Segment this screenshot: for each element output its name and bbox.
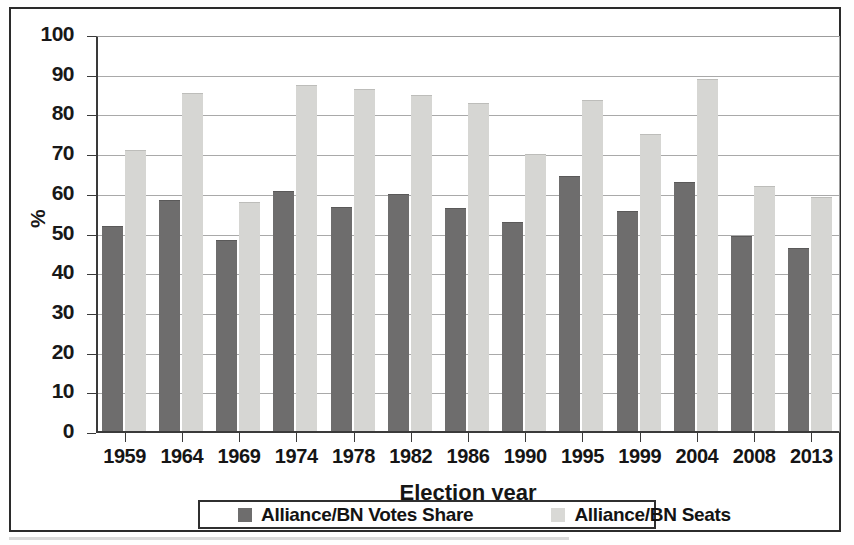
y-tick-label: 0 <box>63 419 74 443</box>
x-tick-label: 1969 <box>210 445 267 468</box>
x-tick-mark <box>525 433 526 442</box>
legend-swatch-votes <box>238 508 252 522</box>
x-tick-label: 1959 <box>96 445 153 468</box>
chart-legend: Alliance/BN Votes ShareAlliance/BN Seats <box>198 500 656 529</box>
x-tick-mark <box>125 433 126 442</box>
y-tick-mark <box>87 433 96 434</box>
y-tick-mark <box>87 274 96 275</box>
x-tick-mark <box>811 433 812 442</box>
y-tick-mark <box>87 115 96 116</box>
plot-area: 1009080706050403020100 19591964196919741… <box>96 36 840 433</box>
x-tick-mark <box>239 433 240 442</box>
y-tick-mark <box>87 235 96 236</box>
x-tick-mark <box>182 433 183 442</box>
x-tick-mark <box>640 433 641 442</box>
y-tick-label: 70 <box>52 141 74 165</box>
legend-label: Alliance/BN Votes Share <box>261 504 473 526</box>
scan-artifact <box>9 537 569 540</box>
x-tick-mark <box>697 433 698 442</box>
y-tick-label: 90 <box>52 62 74 86</box>
x-tick-label: 1982 <box>382 445 439 468</box>
y-tick-mark <box>87 314 96 315</box>
y-tick-label: 20 <box>52 340 74 364</box>
y-tick-label: 80 <box>52 101 74 125</box>
x-tick-mark <box>354 433 355 442</box>
legend-entry: Alliance/BN Votes Share <box>238 504 473 526</box>
y-tick-label: 10 <box>52 379 74 403</box>
x-tick-mark <box>754 433 755 442</box>
y-tick-mark <box>87 354 96 355</box>
x-tick-mark <box>411 433 412 442</box>
x-tick-label: 2008 <box>726 445 783 468</box>
x-tick-label: 2013 <box>783 445 840 468</box>
legend-label: Alliance/BN Seats <box>574 504 730 526</box>
x-tick-label: 1978 <box>325 445 382 468</box>
x-tick-label: 1999 <box>611 445 668 468</box>
figure: % 1009080706050403020100 195919641969197… <box>0 0 854 545</box>
y-tick-mark <box>87 76 96 77</box>
x-tick-mark <box>468 433 469 442</box>
x-tick-label: 1964 <box>153 445 210 468</box>
x-tick-label: 1990 <box>497 445 554 468</box>
legend-entry: Alliance/BN Seats <box>551 504 730 526</box>
x-tick-label: 1974 <box>268 445 325 468</box>
x-tick-label: 1986 <box>439 445 496 468</box>
y-tick-mark <box>87 393 96 394</box>
y-tick-mark <box>87 155 96 156</box>
y-tick-label: 30 <box>52 300 74 324</box>
legend-swatch-seats <box>551 508 565 522</box>
y-tick-label: 60 <box>52 181 74 205</box>
x-tick-mark <box>582 433 583 442</box>
plot-frame <box>96 36 840 433</box>
x-tick-mark <box>296 433 297 442</box>
x-tick-label: 1995 <box>554 445 611 468</box>
y-tick-mark <box>87 195 96 196</box>
y-tick-label: 40 <box>52 260 74 284</box>
y-tick-label: 50 <box>52 221 74 245</box>
x-tick-label: 2004 <box>668 445 725 468</box>
y-axis-title: % <box>26 209 50 228</box>
y-tick-label: 100 <box>40 22 74 46</box>
y-tick-mark <box>87 36 96 37</box>
